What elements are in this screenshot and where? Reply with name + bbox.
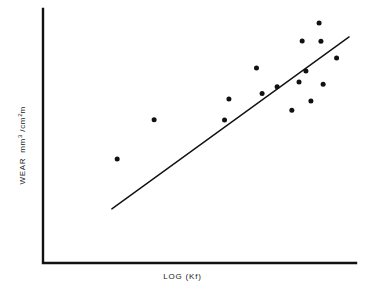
data-point (334, 56, 339, 61)
data-point (115, 157, 120, 162)
data-point (226, 96, 231, 101)
x-axis-label: LOG (Kf) (0, 272, 365, 281)
y-axis-unit-suffix: m (18, 106, 27, 113)
fit-line (112, 37, 349, 209)
plot-canvas (0, 0, 365, 300)
data-point (300, 39, 305, 44)
axis-spines (43, 9, 356, 263)
y-axis-label-prefix: WEAR (18, 158, 27, 185)
data-point (152, 117, 157, 122)
data-point (308, 98, 313, 103)
data-point (289, 108, 294, 113)
data-point (260, 91, 265, 96)
data-point (321, 82, 326, 87)
y-axis-unit-numerator-exponent: 3 (17, 135, 23, 138)
y-axis-unit-numerator: mm (18, 138, 27, 153)
data-point (297, 79, 302, 84)
data-point (275, 84, 280, 89)
data-point (317, 20, 322, 25)
wear-vs-log-kf-chart: WEARmm3 /cm2m LOG (Kf) (0, 0, 365, 300)
y-axis-label: WEARmm3 /cm2m (17, 65, 28, 225)
data-point-group (115, 20, 339, 161)
data-point (303, 68, 308, 73)
data-point (318, 39, 323, 44)
y-axis-unit-separator: /cm (18, 117, 27, 132)
regression-line (112, 37, 349, 209)
data-point (254, 65, 259, 70)
axis-group (43, 9, 356, 263)
y-axis-label-container: WEARmm3 /cm2m (0, 0, 40, 300)
data-point (222, 118, 227, 123)
y-axis-unit-denominator-exponent: 2 (17, 113, 23, 116)
